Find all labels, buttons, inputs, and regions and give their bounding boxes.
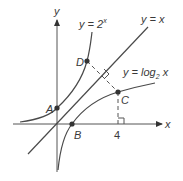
exp-curve-label: y = 2x (78, 17, 107, 30)
log-curve-label: y = log2 x (122, 66, 169, 80)
x-tick-4-label: 4 (114, 129, 120, 141)
y-axis-label: y (53, 5, 61, 17)
point-d (84, 58, 89, 63)
point-a-label: A (45, 103, 53, 115)
point-b-label: B (74, 129, 81, 141)
log-label-suffix: x (160, 66, 169, 78)
graph-svg: y x y = 2x y = x y = log2 x A B C D 4 (0, 0, 183, 181)
point-d-label: D (76, 56, 84, 68)
identity-line (28, 27, 148, 154)
log-label-prefix: y = log (122, 66, 157, 78)
right-angle-marker-x (118, 118, 124, 124)
x-axis-label: x (164, 118, 171, 130)
point-c-label: C (121, 94, 129, 106)
exp-label-exponent: x (102, 17, 107, 24)
point-c (115, 89, 120, 94)
diagram-stage: y x y = 2x y = x y = log2 x A B C D 4 (0, 0, 183, 181)
exp-label-base: y = 2 (78, 18, 103, 30)
point-b (69, 121, 74, 126)
point-a (54, 105, 59, 110)
identity-line-label: y = x (140, 13, 165, 25)
